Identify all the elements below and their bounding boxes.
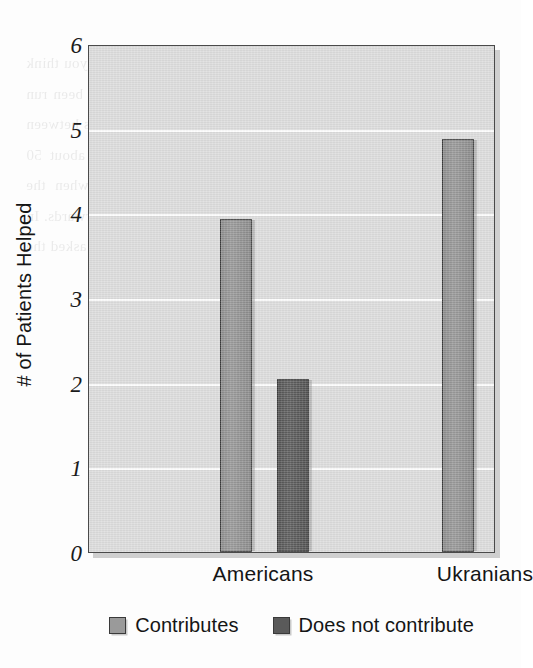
y-tick-label-3: 3 [71, 288, 83, 311]
chart-legend: ContributesDoes not contribute [88, 608, 495, 642]
y-tick-label-1: 1 [71, 457, 83, 480]
y-tick-label-0: 0 [71, 542, 83, 565]
legend-swatch-icon-1 [273, 617, 290, 634]
y-axis-ticks: 0123456 [48, 45, 82, 553]
bar-americans-contributes [220, 219, 252, 552]
legend-item-does-not-contribute[interactable]: Does not contribute [273, 614, 474, 637]
legend-item-contributes[interactable]: Contributes [109, 614, 238, 637]
legend-label: Contributes [135, 614, 238, 637]
gridline-4 [89, 214, 494, 216]
gridline-3 [89, 299, 494, 301]
x-axis-label-americans: Americans [213, 562, 314, 586]
gridline-5 [89, 130, 494, 132]
y-axis-title: # of Patients Helped [13, 145, 36, 445]
bar-ukranians-contributes [442, 139, 474, 552]
plot-area [88, 45, 495, 553]
x-axis-labels: AmericansUkranians [88, 562, 495, 596]
bar-americans-does-not-contribute [277, 379, 309, 552]
legend-swatch-icon-0 [109, 617, 126, 634]
legend-label: Does not contribute [299, 614, 474, 637]
y-tick-label-6: 6 [71, 34, 83, 57]
y-tick-label-5: 5 [71, 118, 83, 141]
y-tick-label-4: 4 [71, 203, 83, 226]
y-tick-label-2: 2 [71, 372, 83, 395]
x-axis-label-ukranians: Ukranians [437, 562, 533, 586]
